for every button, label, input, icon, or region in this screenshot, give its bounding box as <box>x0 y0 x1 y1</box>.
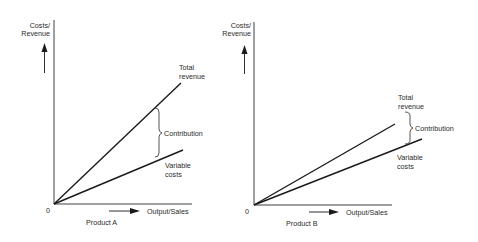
origin-label: 0 <box>245 207 249 216</box>
total-revenue-label-line2: revenue <box>179 72 205 81</box>
x-axis-label: Output/Sales <box>346 208 388 217</box>
total-revenue-line <box>54 83 181 204</box>
variable-costs-label-line1: Variable <box>397 153 423 162</box>
variable-costs-label-line1: Variable <box>165 161 191 170</box>
total-revenue-label-line1: Total <box>179 63 195 72</box>
contribution-brace <box>405 112 413 144</box>
variable-costs-label-line2: costs <box>397 162 414 171</box>
variable-costs-line <box>254 139 422 205</box>
y-arrow-icon <box>42 43 48 73</box>
x-arrow-icon <box>109 208 140 214</box>
panel-product-b: Costs/ Revenue Total revenue Contributio… <box>222 21 454 228</box>
panel-product-a: Costs/ Revenue Total revenue Contributio… <box>21 20 205 227</box>
x-arrow-icon <box>309 209 339 215</box>
product-label: Product B <box>286 219 318 228</box>
total-revenue-line <box>254 124 395 205</box>
variable-costs-line <box>54 150 183 204</box>
contribution-label: Contribution <box>415 124 454 133</box>
origin-label: 0 <box>46 206 50 215</box>
total-revenue-label-line2: revenue <box>398 102 424 111</box>
contribution-label: Contribution <box>164 129 203 138</box>
y-axis-label-line2: Revenue <box>222 29 251 38</box>
total-revenue-label-line1: Total <box>398 93 414 102</box>
x-axis-label: Output/Sales <box>147 207 189 216</box>
contribution-diagram: Costs/ Revenue Total revenue Contributio… <box>0 0 478 242</box>
y-axis-label-line2: Revenue <box>21 29 50 38</box>
product-label: Product A <box>86 218 117 227</box>
variable-costs-label-line2: costs <box>165 170 182 179</box>
y-arrow-icon <box>242 45 248 74</box>
contribution-brace <box>155 108 162 157</box>
